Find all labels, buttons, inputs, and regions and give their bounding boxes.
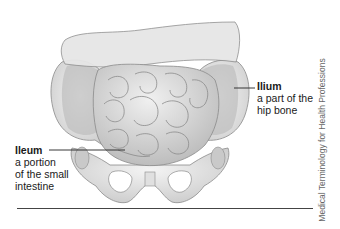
ileum-description-line: intestine	[15, 180, 69, 192]
ilium-description-line: hip bone	[257, 104, 313, 116]
horizontal-rule	[17, 208, 313, 209]
ilium-title: Ilium	[257, 80, 313, 92]
ileum-description-line: of the small	[15, 168, 69, 180]
ilium-description-line: a part of the	[257, 92, 313, 104]
pubic-symphysis	[145, 172, 155, 186]
ilium-label: Ilium a part of the hip bone	[257, 80, 313, 116]
acetabulum-right	[211, 147, 225, 169]
figure-credit: Medical Terminology for Health Professio…	[317, 58, 327, 221]
ileum-title: Ileum	[15, 144, 69, 156]
ileum-description-line: a portion	[15, 156, 69, 168]
large-intestine	[61, 22, 239, 67]
ileum-label: Ileum a portion of the small intestine	[15, 144, 69, 192]
